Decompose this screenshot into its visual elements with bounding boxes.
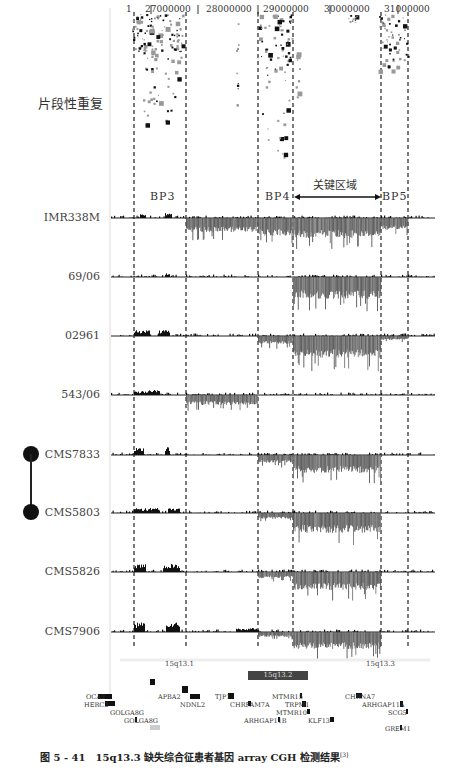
critical-region-label: 关键区域	[313, 176, 357, 192]
gene-golga8g-1: GOLGA8G	[110, 709, 144, 717]
gene-golga8g-2: GOLGA8G	[124, 717, 158, 725]
gene-apba2: APBA2	[158, 693, 181, 701]
gene-chrfam7a: CHRFAM7A	[230, 701, 270, 709]
bp4-label: BP4	[265, 190, 290, 203]
gene-mtmr10: MTMR10	[276, 709, 307, 717]
gene-chrna7: CHRNA7	[345, 693, 375, 701]
gene-scg5: SCG5	[388, 709, 407, 717]
segmental-duplication-label: 片段性重复	[38, 93, 103, 112]
gene-tjp1: TJP1	[215, 693, 230, 701]
axis-tick-29mb: 29000000	[263, 4, 309, 14]
axis-tick-31mb: 31000000	[384, 4, 430, 14]
cgh-plot-graphics	[0, 0, 460, 769]
gene-herc2: HERC2	[84, 701, 108, 709]
gene-grem1: GREM1	[385, 725, 411, 733]
axis-tick-27mb: 27000000	[145, 4, 191, 14]
gene-oca2: OCA2	[86, 693, 105, 701]
axis-tick-28mb: 28000000	[206, 4, 252, 14]
band-block-15q13-2: 15q13.2	[248, 671, 308, 680]
gene-ndnl2: NDNL2	[180, 701, 205, 709]
pedigree-node-cms5803	[23, 504, 39, 520]
band-label-15q13-2: 15q13.2	[248, 671, 308, 680]
gene-mtmr15: MTMR15	[272, 693, 303, 701]
figure-caption-text: 图 5 - 41 15q13.3 缺失综合征患者基因 array CGH 检测结…	[40, 752, 340, 763]
bp5-label: BP5	[382, 190, 407, 203]
sample-label-02961: 02961	[10, 329, 100, 342]
bp3-label: BP3	[150, 190, 175, 203]
sample-label-cms7906: CMS7906	[10, 625, 100, 638]
sample-label-cms5826: CMS5826	[10, 565, 100, 578]
band-label-15q13-1: 15q13.1	[165, 660, 194, 668]
figure-caption: 图 5 - 41 15q13.3 缺失综合征患者基因 array CGH 检测结…	[40, 749, 348, 764]
band-label-15q13-3: 15q13.3	[366, 660, 395, 668]
axis-tick-start: 1	[126, 4, 132, 14]
gene-trpm1: TRPM1	[285, 701, 309, 709]
sample-label-imr338m: IMR338M	[10, 211, 100, 224]
sample-label-69-06: 69/06	[10, 270, 100, 283]
gene-arhgap11b: ARHGAP11B	[244, 717, 287, 725]
gene-klf13: KLF13	[308, 717, 330, 725]
sample-label-543-06: 543/06	[10, 388, 100, 401]
axis-tick-30mb: 30000000	[324, 4, 370, 14]
gene-arhgap11a: ARHGAP11A	[362, 701, 404, 709]
figure-caption-ref: [3]	[340, 751, 349, 758]
